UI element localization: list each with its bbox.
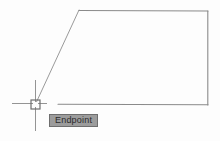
osnap-tooltip: Endpoint xyxy=(49,114,98,127)
top-edge[interactable] xyxy=(79,11,208,12)
drawing-canvas[interactable] xyxy=(0,0,220,141)
bottom-edge[interactable] xyxy=(58,104,208,105)
quadrilateral-outline[interactable] xyxy=(36,10,208,105)
crosshair-cursor[interactable] xyxy=(12,80,47,131)
left-diagonal-edge[interactable] xyxy=(36,10,79,103)
osnap-tooltip-label: Endpoint xyxy=(55,115,92,126)
cad-viewport[interactable]: Endpoint xyxy=(0,0,220,141)
endpoint-snap-square-inner xyxy=(33,102,38,107)
